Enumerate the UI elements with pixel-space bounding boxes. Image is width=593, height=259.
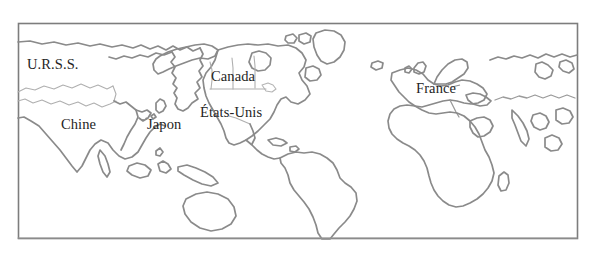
map-label-france: France [416,81,456,96]
world-map: U.R.S.S. Chine Japon Canada États-Unis F… [0,0,593,259]
map-label-chine: Chine [61,117,96,132]
map-label-urss: U.R.S.S. [27,57,79,72]
map-label-canada: Canada [211,69,255,84]
map-label-etats-unis: États-Unis [200,105,262,120]
map-label-japon: Japon [147,117,181,132]
